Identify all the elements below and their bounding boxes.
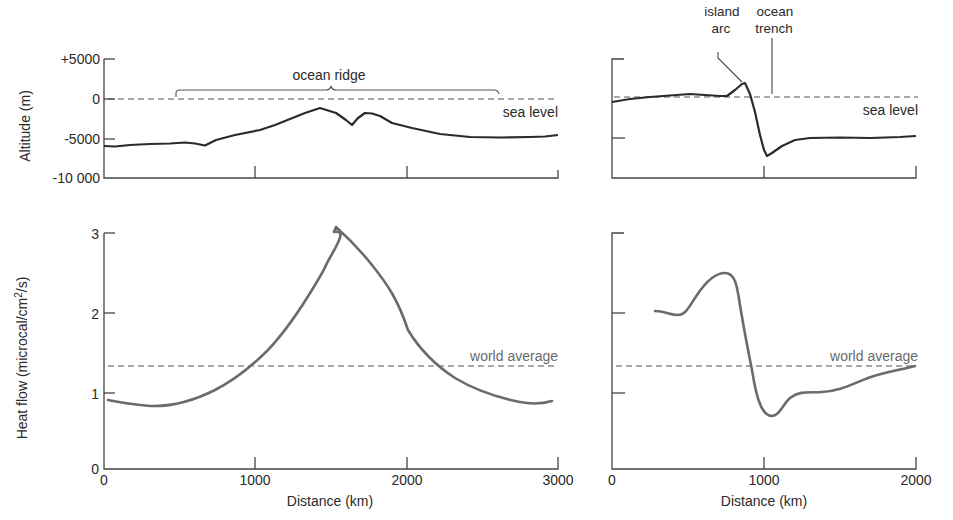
- x-tick-label: 1000: [748, 472, 779, 488]
- heat-tick-label: 0: [91, 461, 99, 477]
- ocean-trench-label: ocean: [757, 4, 794, 19]
- arc-altitude-panel: sea level island arc ocean trench: [612, 4, 918, 178]
- x-axis-label: Distance (km): [287, 493, 373, 509]
- x-tick-label: 0: [608, 472, 616, 488]
- ocean-trench-label: trench: [755, 21, 793, 36]
- ridge-heatflow-curve: [108, 227, 552, 406]
- alt-tick-label: -5000: [64, 131, 100, 147]
- ocean-ridge-label: ocean ridge: [292, 67, 365, 83]
- ridge-altitude-curve: [104, 108, 558, 147]
- world-average-label: world average: [469, 348, 558, 364]
- ridge-heatflow-panel: Heat flow (microcal/cm2/s) 3 2 1 0 0 100…: [13, 226, 574, 509]
- sea-level-label: sea level: [863, 102, 918, 118]
- sea-level-label: sea level: [503, 104, 558, 120]
- arc-altitude-axes: [612, 59, 916, 178]
- ocean-ridge-brace: [176, 86, 499, 97]
- arc-heatflow-panel: 0 1000 2000 Distance (km) world average: [608, 233, 932, 509]
- heat-flow-axis-label-text: Heat flow (microcal/cm: [14, 298, 30, 440]
- arc-altitude-curve: [612, 83, 916, 156]
- heat-tick-label: 2: [91, 306, 99, 322]
- arc-heatflow-curve: [655, 273, 915, 416]
- x-tick-label: 2000: [391, 472, 422, 488]
- figure: Altitude (m) +5000 0 -5000 -10 000 sea l…: [0, 0, 953, 520]
- altitude-axis-label: Altitude (m): [17, 90, 33, 162]
- x-tick-label: 1000: [239, 472, 270, 488]
- heat-tick-label: 3: [91, 226, 99, 242]
- heat-tick-label: 1: [91, 386, 99, 402]
- x-axis-label: Distance (km): [721, 493, 807, 509]
- ridge-altitude-panel: Altitude (m) +5000 0 -5000 -10 000 sea l…: [17, 51, 558, 186]
- heat-flow-axis-label: Heat flow (microcal/cm2/s): [13, 277, 31, 440]
- island-arc-label: arc: [712, 21, 731, 36]
- alt-tick-label: +5000: [61, 51, 101, 67]
- island-arc-leader: [718, 52, 742, 82]
- x-tick-label: 3000: [542, 472, 573, 488]
- alt-tick-label: -10 000: [53, 170, 101, 186]
- x-tick-label: 2000: [900, 472, 931, 488]
- x-tick-label: 0: [100, 472, 108, 488]
- alt-tick-label: 0: [92, 91, 100, 107]
- island-arc-label: island: [704, 4, 739, 19]
- world-average-label: world average: [829, 348, 918, 364]
